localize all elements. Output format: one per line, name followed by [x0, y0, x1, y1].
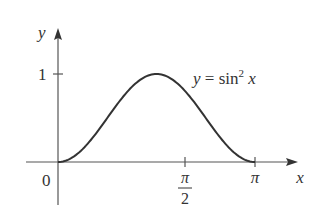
- x-tick-label-0: 0: [42, 171, 51, 190]
- function-label-var: x: [244, 69, 256, 88]
- y-tick-label-1: 1: [38, 65, 47, 84]
- x-tick-label-pi: π: [251, 168, 260, 187]
- x-tick-label-pi-over-2-num: π: [181, 169, 190, 186]
- function-label-eq: = sin: [201, 69, 239, 88]
- x-axis-label: x: [295, 168, 304, 187]
- x-tick-label-pi-over-2-den: 2: [181, 190, 189, 207]
- chart: y 1 0 π 2 π x y = sin2 x: [0, 0, 328, 215]
- y-axis-label: y: [36, 23, 46, 42]
- function-label-lhs: y: [191, 69, 201, 88]
- function-label: y = sin2 x: [191, 67, 256, 88]
